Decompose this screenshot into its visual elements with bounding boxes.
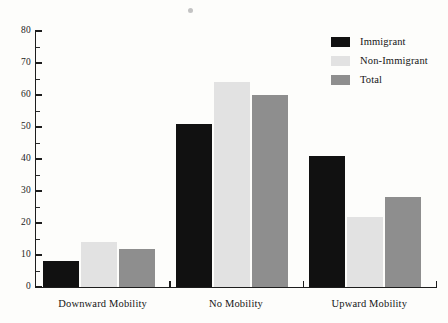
x-axis-line bbox=[35, 287, 437, 288]
y-tick-0 bbox=[36, 286, 42, 287]
bar-downward-mobility-total bbox=[119, 249, 155, 287]
y-tick-label-20: 20 bbox=[5, 218, 31, 228]
y-minor-tick-35 bbox=[36, 175, 40, 176]
y-tick-label-10: 10 bbox=[5, 250, 31, 260]
y-minor-tick-25 bbox=[36, 207, 40, 208]
y-minor-tick-15 bbox=[36, 239, 40, 240]
y-tick-40 bbox=[36, 158, 42, 159]
y-tick-30 bbox=[36, 190, 42, 191]
y-minor-tick-55 bbox=[36, 111, 40, 112]
legend-swatch-immigrant bbox=[331, 37, 350, 47]
y-tick-70 bbox=[36, 62, 42, 63]
legend-item-total: Total bbox=[331, 71, 443, 88]
y-tick-60 bbox=[36, 94, 42, 95]
y-tick-label-40: 40 bbox=[5, 154, 31, 164]
y-minor-tick-45 bbox=[36, 143, 40, 144]
y-minor-tick-5 bbox=[36, 271, 40, 272]
bar-no-mobility-total bbox=[252, 95, 288, 287]
y-minor-tick-65 bbox=[36, 79, 40, 80]
x-category-label-no-mobility: No Mobility bbox=[169, 298, 302, 310]
x-group-divider-tick-1 bbox=[169, 281, 170, 288]
chart-legend: Immigrant Non-Immigrant Total bbox=[331, 33, 443, 90]
y-tick-80 bbox=[36, 30, 42, 31]
y-tick-label-80: 80 bbox=[5, 26, 31, 36]
legend-label-non-immigrant: Non-Immigrant bbox=[360, 55, 428, 66]
legend-item-non-immigrant: Non-Immigrant bbox=[331, 52, 443, 69]
y-tick-label-0: 0 bbox=[5, 282, 31, 292]
bar-chart: 01020304050607080 Downward MobilityNo Mo… bbox=[0, 0, 448, 323]
y-tick-label-50: 50 bbox=[5, 122, 31, 132]
bar-upward-mobility-immigrant bbox=[309, 156, 345, 287]
x-axis-end-tick bbox=[436, 281, 437, 288]
bar-no-mobility-immigrant bbox=[176, 124, 212, 287]
bar-upward-mobility-total bbox=[385, 197, 421, 287]
y-tick-label-60: 60 bbox=[5, 90, 31, 100]
bar-downward-mobility-non-immigrant bbox=[81, 242, 117, 287]
x-category-label-upward-mobility: Upward Mobility bbox=[303, 298, 436, 310]
y-tick-label-30: 30 bbox=[5, 186, 31, 196]
y-tick-50 bbox=[36, 126, 42, 127]
y-tick-10 bbox=[36, 254, 42, 255]
legend-label-immigrant: Immigrant bbox=[360, 36, 406, 47]
bar-downward-mobility-immigrant bbox=[43, 261, 79, 287]
bar-upward-mobility-non-immigrant bbox=[347, 217, 383, 287]
legend-label-total: Total bbox=[360, 74, 382, 85]
x-category-label-downward-mobility: Downward Mobility bbox=[36, 298, 169, 310]
legend-swatch-non-immigrant bbox=[331, 56, 350, 66]
legend-item-immigrant: Immigrant bbox=[331, 33, 443, 50]
scan-artifact-speck bbox=[188, 8, 193, 13]
y-tick-20 bbox=[36, 222, 42, 223]
y-tick-label-70: 70 bbox=[5, 58, 31, 68]
bar-no-mobility-non-immigrant bbox=[214, 82, 250, 287]
y-minor-tick-75 bbox=[36, 47, 40, 48]
legend-swatch-total bbox=[331, 75, 350, 85]
x-group-divider-tick-2 bbox=[303, 281, 304, 288]
